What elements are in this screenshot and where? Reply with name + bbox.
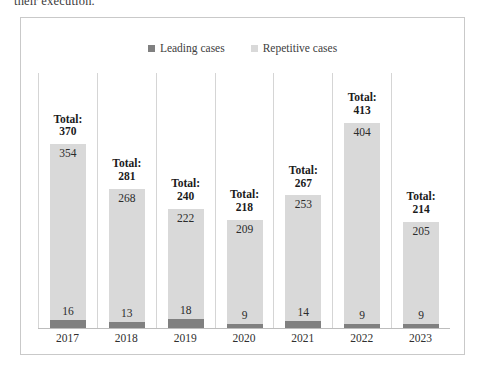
x-tick-2020: 2020 <box>215 332 274 344</box>
figure-frame: Leading cases Repetitive cases Total:370… <box>20 17 465 355</box>
total-prefix-2017: Total: <box>53 113 82 126</box>
bar-value-leading-2021: 14 <box>298 306 310 318</box>
bar-value-repetitive-2023: 205 <box>403 225 439 237</box>
total-label-2018: Total:281 <box>112 157 141 183</box>
total-value-2019: 240 <box>171 190 200 203</box>
legend-item-repetitive-cases[interactable]: Repetitive cases <box>251 42 337 54</box>
total-prefix-2021: Total: <box>289 164 318 177</box>
total-label-2022: Total:413 <box>348 91 377 117</box>
total-prefix-2020: Total: <box>230 188 259 201</box>
x-tick-2019: 2019 <box>156 332 215 344</box>
total-label-2023: Total:214 <box>407 190 436 216</box>
bar-group-2022: Total:4134049 <box>333 73 392 328</box>
bar-group-2021: Total:26725314 <box>274 73 333 328</box>
bar-group-2018: Total:28126813 <box>98 73 157 328</box>
total-label-2020: Total:218 <box>230 188 259 214</box>
bar-value-leading-2018: 13 <box>121 307 133 319</box>
total-prefix-2018: Total: <box>112 157 141 170</box>
bar-value-repetitive-2017: 354 <box>50 147 86 159</box>
bar-repetitive-2019[interactable]: 222 <box>168 209 204 319</box>
bar-repetitive-2022[interactable]: 404 <box>344 123 380 324</box>
bar-value-repetitive-2022: 404 <box>344 126 380 138</box>
bar-group-2019: Total:24022218 <box>157 73 216 328</box>
bar-value-repetitive-2020: 209 <box>227 223 263 235</box>
bar-value-leading-2020: 9 <box>242 309 248 321</box>
legend-label-repetitive: Repetitive cases <box>263 42 337 54</box>
total-prefix-2019: Total: <box>171 177 200 190</box>
bar-value-leading-2019: 18 <box>180 304 192 316</box>
x-tick-2018: 2018 <box>97 332 156 344</box>
bar-value-repetitive-2019: 222 <box>168 212 204 224</box>
total-prefix-2022: Total: <box>348 91 377 104</box>
total-value-2022: 413 <box>348 104 377 117</box>
total-label-2021: Total:267 <box>289 164 318 190</box>
bar-repetitive-2018[interactable]: 268 <box>109 189 145 322</box>
bar-value-leading-2022: 9 <box>359 309 365 321</box>
legend-label-leading: Leading cases <box>160 42 225 54</box>
bar-group-2017: Total:37035416 <box>38 73 98 328</box>
bar-leading-2017[interactable] <box>50 320 86 328</box>
bar-value-leading-2023: 9 <box>418 309 424 321</box>
total-value-2017: 370 <box>53 125 82 138</box>
total-value-2018: 281 <box>112 170 141 183</box>
bar-leading-2019[interactable] <box>168 319 204 328</box>
bar-value-leading-2017: 16 <box>62 305 74 317</box>
x-tick-2023: 2023 <box>391 332 450 344</box>
chart-legend: Leading cases Repetitive cases <box>21 42 464 54</box>
legend-item-leading-cases[interactable]: Leading cases <box>148 42 225 54</box>
x-tick-2021: 2021 <box>273 332 332 344</box>
total-prefix-2023: Total: <box>407 190 436 203</box>
bar-leading-2021[interactable] <box>285 321 321 328</box>
bar-value-repetitive-2018: 268 <box>109 192 145 204</box>
x-tick-2017: 2017 <box>38 332 97 344</box>
bar-group-2020: Total:2182099 <box>216 73 275 328</box>
plot-area: Total:37035416Total:28126813Total:240222… <box>38 73 450 328</box>
bar-value-repetitive-2021: 253 <box>285 198 321 210</box>
x-tick-2022: 2022 <box>332 332 391 344</box>
x-axis-tick-labels: 2017201820192020202120222023 <box>38 332 450 344</box>
total-value-2023: 214 <box>407 203 436 216</box>
total-label-2019: Total:240 <box>171 177 200 203</box>
total-label-2017: Total:370 <box>53 113 82 139</box>
bar-group-2023: Total:2142059 <box>392 73 450 328</box>
bar-repetitive-2021[interactable]: 253 <box>285 195 321 321</box>
total-value-2021: 267 <box>289 177 318 190</box>
bar-repetitive-2017[interactable]: 354 <box>50 144 86 320</box>
x-axis-line <box>38 328 450 329</box>
total-value-2020: 218 <box>230 201 259 214</box>
document-text-fragment: their execution. <box>14 0 95 9</box>
legend-swatch-leading-icon <box>148 45 155 52</box>
legend-swatch-repetitive-icon <box>251 45 258 52</box>
